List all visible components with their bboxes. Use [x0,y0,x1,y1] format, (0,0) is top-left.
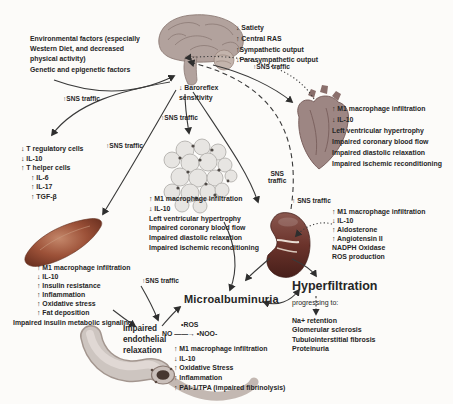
sns-afferent-line: SNS [268,170,286,177]
kidney-effect-item: ↑ Aldosterone [332,225,425,234]
center-effect-item: Impaired coronary blood flow [149,223,259,233]
kidney-effect-item: ↑ Angiotensin II [332,234,425,243]
arrow-kidney-to-microalbuminuria [246,258,270,280]
center-effects-block: ↑ M1 macrophage infiltration ↓ IL-10 Lef… [149,194,259,253]
skeletal-muscle-icon [25,218,102,266]
env-line: physical activity) [30,54,140,64]
sns-label-adipose: ↑SNS traffic [161,114,198,121]
center-effect-item: Impaired diastolic relaxation [149,233,259,243]
muscle-effect-item: ↑ Inflammation [37,290,132,299]
tcell-item: ↑ T helper cells [21,163,83,173]
arrow-sns-to-vessel [141,286,158,320]
heart-effect-item: Left ventricular hypertrophy [332,125,442,136]
heart-effect-item: Impaired ischemic reconditioning [332,158,442,169]
center-effect-item: Impaired ischemic reconditioning [149,243,259,253]
baroreflex-block: ↓ Baroreflex sensitivity [179,83,218,102]
hyperfiltration-progression-block: Na+ retention Glomerular sclerosis Tubul… [292,316,375,354]
baroreflex-line: sensitivity [179,93,218,103]
endothelial-line: endothelial [123,334,166,345]
heart-effect-item: ↓ IL-10 [332,114,442,125]
kidney-icon [267,213,310,278]
muscle-effects-block: ↑ M1 macrophage infiltration ↓ IL-10 ↑ I… [37,263,132,327]
center-effect-item: ↓ IL-10 [149,204,259,214]
env-line: Environmental factors (especially [30,34,140,44]
tcell-item: ↑ TGF-β [21,192,83,202]
sns-label-tcells: ↑SNS traffic [63,95,100,102]
vessel-effect-item: ↑ Inflammation [174,373,285,383]
vessel-effect-item: ↑ M1 macrophage infiltration [174,344,285,354]
kidney-effect-item: ↑ M1 macrophage infiltration [332,207,425,216]
ros-label: •ROS [181,321,198,328]
sns-label-kidney: ↑ SNS traffic [292,197,331,204]
endothelial-line: relaxation [123,345,166,356]
brain-outputs-block: ↓ Satiety ↑ Central RAS ↑Sympathetic out… [236,23,318,66]
tcell-item: ↑ IL-17 [21,182,83,192]
center-effect-item: ↑ M1 macrophage infiltration [149,194,259,204]
progression-item: Tubulointerstitial fibrosis [292,335,375,344]
muscle-effect-item: Impaired insulin metabolic signaling [13,318,132,327]
brain-output-line: ↑Sympathetic output [236,45,318,56]
microalbuminuria-label: Microalbuminuria [184,293,279,305]
muscle-effect-item: ↑ Fat deposition [37,308,132,317]
sns-label-muscle: ↑SNS traffic [106,142,143,149]
brain-output-line: ↑ Central RAS [236,34,318,45]
progression-item: Glomerular sclerosis [292,325,375,334]
progression-item: Proteinuria [292,344,375,353]
vessel-effect-item: ↓ IL-10 [174,354,285,364]
arrow-brain-to-tcells [52,82,170,135]
figure-canvas: Environmental factors (especially Wester… [0,0,453,404]
tcell-item: ↓ IL-10 [21,154,83,164]
progression-item: Na+ retention [292,316,375,325]
arrow-brain-to-heart [213,65,292,102]
environmental-factors-block: Environmental factors (especially Wester… [30,34,140,75]
no-noo-reaction: NO ——→ •NOO- [162,330,217,337]
kidney-effect-item: ROS production [332,252,425,261]
tcell-item: ↓ T regulatory cells [21,144,83,154]
endothelial-line: Impaired [123,323,166,334]
sns-label-vessel: ↑SNS traffic [142,277,179,284]
hyperfiltration-subtitle: progressing to: [292,299,338,306]
tcell-item: ↑ IL-6 [21,173,83,183]
arrow-envfactors-to-brain [54,76,174,91]
brain-icon [159,15,244,85]
heart-effect-item: Impaired diastolic relaxation [332,147,442,158]
heart-effect-item: ↑ M1 macrophage infiltration [332,103,442,114]
baroreflex-line: ↓ Baroreflex [179,83,218,93]
muscle-effect-item: ↓ IL-10 [37,272,132,281]
impaired-endothelial-label: Impaired endothelial relaxation [123,323,166,356]
muscle-effect-item: ↑ Insulin resistance [37,281,132,290]
heart-effects-block: ↑ M1 macrophage infiltration ↓ IL-10 Lef… [332,103,442,169]
muscle-effect-item: ↑ M1 macrophage infiltration [37,263,132,272]
vessel-effect-item: ↑ Oxidative Stress [174,363,285,373]
sns-label-afferent: SNS traffic [268,170,286,184]
sns-label-heart: ↑SNS traffic [253,63,290,70]
vessel-effect-item: ↑ PAI-1/TPA (impaired fibrinolysis) [174,383,285,393]
tcell-block: ↓ T regulatory cells ↓ IL-10 ↑ T helper … [21,144,83,202]
muscle-effect-item: ↑ Oxidative stress [37,299,132,308]
brain-output-line: ↓ Satiety [236,23,318,34]
kidney-effect-item: NADPH Oxidase [332,243,425,252]
env-line: Western Diet, and decreased [30,44,140,54]
kidney-effect-item: ↓ IL-10 [332,216,425,225]
center-effect-item: Left ventricular hypertrophy [149,214,259,224]
hyperfiltration-title: Hyperfiltration [292,279,377,293]
heart-effect-item: Impaired coronary blood flow [332,136,442,147]
sns-afferent-line: traffic [268,177,286,184]
vessel-effects-block: ↑ M1 macrophage infiltration ↓ IL-10 ↑ O… [174,344,285,393]
env-line: Genetic and epigenetic factors [30,65,140,75]
kidney-effects-block: ↑ M1 macrophage infiltration ↓ IL-10 ↑ A… [332,207,425,262]
